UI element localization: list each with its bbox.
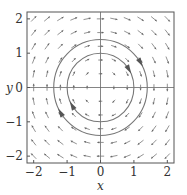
arrow-head [153, 89, 155, 91]
arrow-head [102, 18, 104, 20]
arrow-head [99, 100, 101, 102]
arrow-head [113, 87, 115, 89]
arrow-head [46, 84, 48, 86]
arrow-head [98, 128, 100, 130]
y-axis-label: y [5, 81, 13, 95]
arrow-head [86, 86, 88, 88]
direction-field-plot: −2−1012−2−1012xy [0, 0, 187, 195]
arrow-head [101, 59, 103, 61]
y-tick-label: −2 [5, 149, 23, 163]
x-tick-label: 2 [163, 165, 171, 179]
y-tick-label: 1 [15, 46, 23, 60]
arrow-head [97, 141, 99, 143]
arrow-head [140, 88, 142, 90]
arrow-head [73, 85, 75, 87]
y-tick-label: −1 [5, 115, 23, 129]
arrow-head [98, 114, 100, 116]
y-tick-label: 2 [15, 12, 23, 26]
x-tick-label: −2 [25, 165, 43, 179]
y-tick-label: 0 [15, 81, 23, 95]
arrow-head [97, 155, 99, 157]
x-tick-label: −1 [58, 165, 76, 179]
x-tick-label: 0 [97, 165, 105, 179]
x-tick-label: 1 [130, 165, 138, 179]
arrow-head [102, 32, 104, 34]
arrow-head [166, 89, 168, 91]
trajectory-arrowhead [70, 102, 77, 111]
arrow-head [33, 84, 35, 86]
arrow-head [101, 45, 103, 47]
trajectory-arrowhead [124, 64, 131, 73]
x-axis-label: x [97, 179, 104, 193]
arrow-head [59, 85, 61, 87]
arrow-head [126, 88, 128, 90]
arrow-head [100, 73, 102, 75]
